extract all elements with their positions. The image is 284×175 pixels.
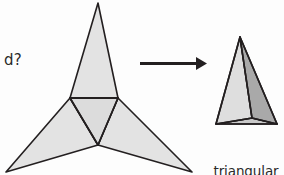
triangular-pyramid-solid xyxy=(216,37,277,124)
arrow-head xyxy=(196,57,207,70)
triangular-pyramid-net xyxy=(6,3,192,172)
pyramid-caption: triangular pyramid xyxy=(208,134,284,175)
geometry-figure: d? triangular pyramid xyxy=(0,0,284,175)
net-flap-top-triangle xyxy=(70,3,118,98)
fold-arrow xyxy=(140,57,207,70)
pyramid-caption-line1: triangular xyxy=(208,164,284,175)
prompt-label: d? xyxy=(4,52,22,69)
